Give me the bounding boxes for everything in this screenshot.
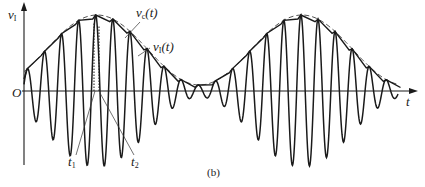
figure-caption: (b) (207, 166, 220, 178)
y-axis-label: vI (8, 8, 16, 23)
vc-label: vc(t) (136, 6, 158, 21)
t2-label: t2 (131, 155, 139, 170)
y-axis-arrow-icon (21, 2, 27, 11)
vi-label: vI(t) (153, 40, 174, 55)
t1-label: t1 (68, 155, 76, 170)
leader-lines (76, 22, 150, 155)
envelope-detector-waveform-figure (0, 0, 425, 187)
origin-label: O (12, 86, 21, 99)
x-axis-label: t (406, 95, 410, 108)
x-axis-arrow-icon (409, 88, 418, 94)
